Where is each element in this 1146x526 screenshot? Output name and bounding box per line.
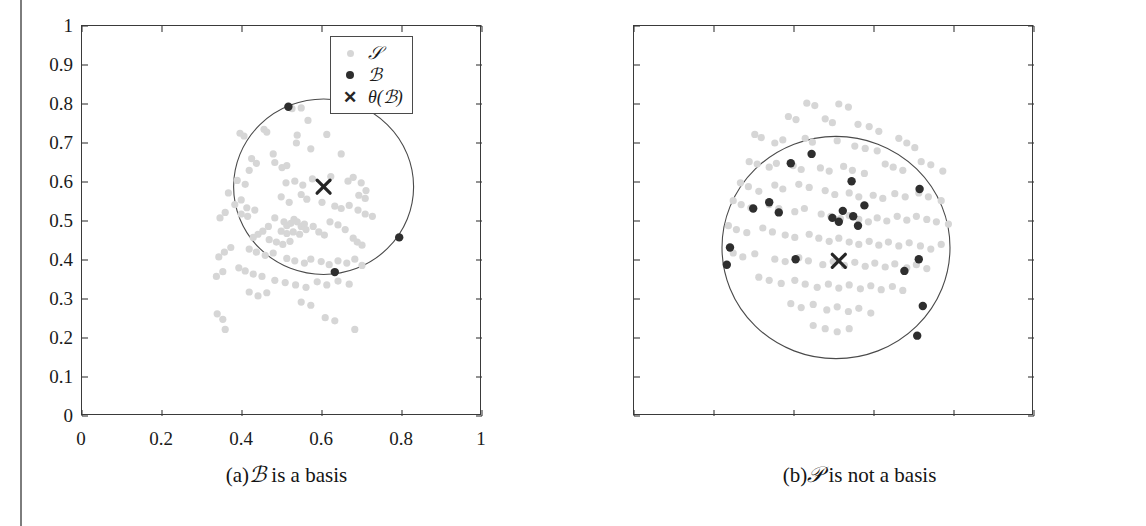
sample-point-marker (823, 306, 830, 313)
cross-marker-icon: ✕ (338, 89, 362, 106)
sample-point-marker (771, 182, 778, 189)
sample-point-marker (846, 281, 853, 288)
selected-point-marker (919, 302, 927, 310)
sample-point-marker (855, 305, 862, 312)
sample-point-marker (834, 137, 841, 144)
sample-point-marker (895, 242, 902, 249)
sample-point-marker (857, 285, 864, 292)
sample-point-marker (882, 263, 889, 270)
sample-point-marker (798, 166, 805, 173)
sample-point-marker (866, 238, 873, 245)
sample-point-marker (894, 213, 901, 220)
sample-point-marker (913, 213, 920, 220)
sample-point-marker (350, 174, 357, 181)
sample-point-marker (291, 257, 298, 264)
sample-point-marker (822, 325, 829, 332)
sample-point-marker (771, 139, 778, 146)
y-tick-label: 0.9 (7, 55, 73, 74)
sample-point-marker (250, 270, 257, 277)
sample-point-marker (355, 192, 362, 199)
sample-point-marker (855, 241, 862, 248)
sample-point-marker (791, 208, 798, 215)
sample-point-marker (754, 160, 761, 167)
sample-point-marker (250, 234, 257, 241)
y-tick-label: 0.2 (1132, 328, 1146, 347)
sample-point-marker (825, 281, 832, 288)
plot-area-a (81, 25, 481, 415)
sample-point-marker (771, 256, 778, 263)
selected-point-marker (913, 331, 921, 339)
y-tick-label: 0.4 (1132, 250, 1146, 269)
legend-label: ℬ (362, 64, 382, 86)
sample-point-marker (298, 104, 305, 111)
sample-point-marker (326, 261, 333, 268)
y-tick-label: 0.1 (1132, 367, 1146, 386)
sample-point-marker (834, 328, 841, 335)
sample-point-marker (755, 188, 762, 195)
sample-point-marker (326, 218, 333, 225)
sample-point-marker (875, 128, 882, 135)
sample-point-marker (840, 163, 847, 170)
sample-point-marker (219, 268, 226, 275)
sample-point-marker (801, 205, 808, 212)
selected-point-marker (284, 103, 292, 111)
selected-point-marker (331, 268, 339, 276)
selected-point-marker (765, 198, 773, 206)
caption-b-prefix: (b) (783, 463, 808, 487)
sample-point-marker (902, 193, 909, 200)
sample-point-marker (246, 288, 253, 295)
sample-point-marker (323, 131, 330, 138)
sample-point-marker (253, 249, 260, 256)
sample-point-marker (739, 253, 746, 260)
sample-point-marker (338, 150, 345, 157)
sample-point-marker (846, 189, 853, 196)
sample-point-marker (279, 241, 286, 248)
y-tick-label: 0.3 (1132, 289, 1146, 308)
sample-point-marker (342, 226, 349, 233)
caption-b-text: is not a basis (823, 463, 936, 487)
sample-point-marker (923, 216, 930, 223)
sample-point-marker (351, 326, 358, 333)
sample-point-marker (891, 260, 898, 267)
sample-point-marker (262, 252, 269, 259)
sample-point-marker (751, 131, 758, 138)
sample-point-marker (737, 179, 744, 186)
sample-point-marker (283, 230, 290, 237)
sample-point-marker (258, 273, 265, 280)
selected-point-marker (775, 208, 783, 216)
sample-point-marker (310, 223, 317, 230)
sample-point-marker (362, 195, 369, 202)
selected-dot-icon (338, 71, 362, 79)
x-tick-label: 1 (476, 429, 486, 448)
sample-point-marker (302, 284, 309, 291)
selected-point-marker (395, 233, 403, 241)
caption-a-prefix: (a) (226, 463, 249, 487)
centroid-cross-marker (317, 180, 330, 193)
sample-point-marker (899, 287, 906, 294)
panel-a: 00.10.20.30.40.50.60.70.80.9100.20.40.60… (0, 0, 573, 526)
y-tick-label: 0.9 (1132, 55, 1146, 74)
sample-point-marker (253, 160, 260, 167)
sample-point-marker (818, 210, 825, 217)
sample-dot-icon (338, 50, 362, 57)
sample-point-marker (234, 177, 241, 184)
y-tick-label: 0.5 (1132, 211, 1146, 230)
legend-row: ✕θ(ℬ) (338, 86, 403, 108)
sample-point-marker (263, 128, 270, 135)
sample-point-marker (890, 164, 897, 171)
sample-point-marker (851, 143, 858, 150)
sample-point-marker (835, 235, 842, 242)
legend-a: 𝒮ℬ✕θ(ℬ) (330, 36, 413, 114)
sample-point-marker (871, 260, 878, 267)
y-tick-label: 1 (7, 16, 73, 35)
selected-point-marker (807, 150, 815, 158)
legend-row: 𝒮 (338, 42, 403, 64)
sample-point-marker (829, 119, 836, 126)
sample-point-marker (283, 255, 290, 262)
sample-point-marker (866, 123, 873, 130)
sample-point-marker (283, 162, 290, 169)
y-tick-label: 0.8 (7, 94, 73, 113)
y-tick-label: 0.2 (7, 328, 73, 347)
legend-label: 𝒮 (362, 43, 382, 64)
sample-point-marker (891, 190, 898, 197)
